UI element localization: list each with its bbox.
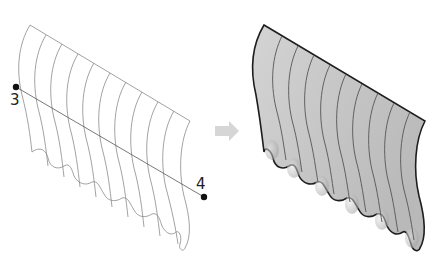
section-curve <box>35 35 48 166</box>
figure-canvas: 3 4 <box>0 0 448 261</box>
illustration-svg <box>0 0 448 261</box>
section-curve <box>51 44 64 177</box>
section-curve <box>19 25 32 152</box>
guide-line <box>16 87 204 197</box>
bottom-edge <box>32 149 185 250</box>
point-4-label: 4 <box>196 177 206 192</box>
section-curve <box>131 92 144 227</box>
section-curve <box>115 82 128 217</box>
wireframe-sections <box>16 25 204 250</box>
shaded-lofted-surface <box>253 25 425 251</box>
point-4-marker <box>201 194 207 200</box>
point-3-marker <box>13 84 19 90</box>
point-3-label: 3 <box>10 93 20 108</box>
cropped-caption-left <box>8 0 208 2</box>
section-curve <box>99 73 112 207</box>
surface-fill <box>253 25 425 251</box>
right-arrow-icon <box>215 121 239 141</box>
cropped-caption-right <box>256 0 320 2</box>
